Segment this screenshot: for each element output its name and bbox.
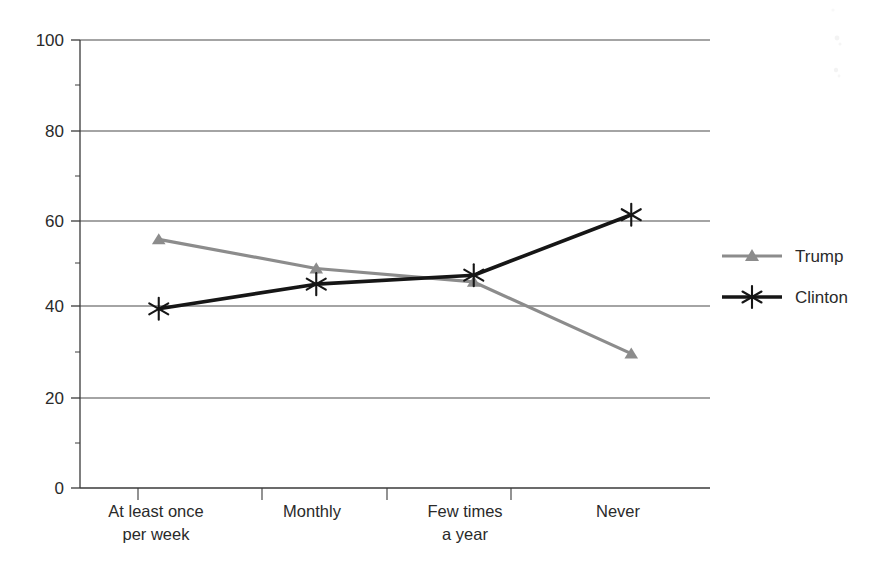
- x-label-few-times-line2: a year: [442, 525, 488, 543]
- y-tick-label-100: 100: [36, 31, 64, 50]
- y-tick-label-20: 20: [45, 389, 64, 408]
- legend-label-clinton: Clinton: [795, 288, 848, 307]
- y-tick-label-40: 40: [45, 297, 64, 316]
- y-tick-label-0: 0: [55, 479, 64, 498]
- x-label-never: Never: [596, 502, 641, 520]
- x-label-at-least-once-line2: per week: [123, 525, 191, 543]
- chart-background: [0, 0, 883, 580]
- y-tick-label-80: 80: [45, 122, 64, 141]
- y-tick-label-60: 60: [45, 212, 64, 231]
- line-chart: 100 80 60 40 20 0 At least once per week…: [0, 0, 883, 580]
- x-label-monthly: Monthly: [283, 502, 342, 520]
- x-label-at-least-once-line1: At least once: [108, 502, 203, 520]
- legend-label-trump: Trump: [795, 247, 844, 266]
- x-label-few-times-line1: Few times: [427, 502, 502, 520]
- chart-canvas: 100 80 60 40 20 0 At least once per week…: [0, 0, 883, 580]
